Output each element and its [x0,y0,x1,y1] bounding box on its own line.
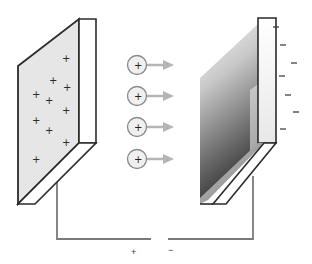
positive-charge-icon: + [32,115,40,126]
positive-charge-icon: + [32,154,40,165]
positive-terminal-label: + [131,247,136,257]
positive-charge-icon: + [49,75,57,86]
arrow-right-icon [163,60,174,70]
right-plate-side [258,18,276,143]
left-plate-side [79,19,96,143]
wire-left-segment [57,171,151,239]
arrow-right-icon [163,122,174,132]
positive-charge-icon: + [62,53,70,64]
positive-charge-icon: + [45,125,53,136]
ion-charge-label: + [134,154,142,165]
ion-charge-label: + [134,60,142,71]
right-plate-sheen [250,84,258,152]
positive-charge-icon: + [63,82,71,93]
right-plate-negative [200,18,299,204]
positive-charge-icon: + [45,95,53,106]
positive-charge-icon: + [62,137,70,148]
ion: + [128,118,175,137]
arrow-right-icon [163,154,174,164]
ion: + [128,56,175,75]
ion: + [128,87,175,106]
positive-charge-icon: + [32,89,40,100]
negative-terminal-label: − [168,245,173,255]
right-plate-charges [273,27,299,129]
positive-charge-icon: + [62,105,70,116]
ion: + [128,150,175,169]
ion-charge-label: + [134,122,142,133]
ion-charge-label: + [134,91,142,102]
left-plate-positive: + + + + + + + + + + [18,19,96,204]
capacitor-diagram: + + + + + + + + + + + + + [0,0,312,264]
arrow-right-icon [163,91,174,101]
moving-ions: + + + + [128,56,175,169]
